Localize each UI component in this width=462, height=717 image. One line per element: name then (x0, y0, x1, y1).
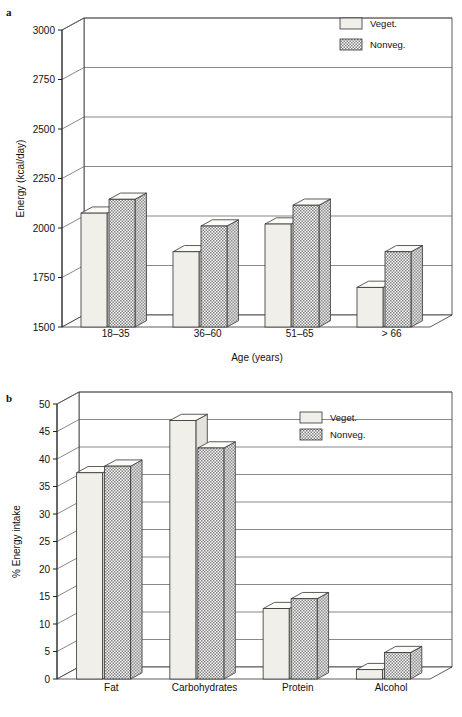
y-axis-title: % Energy intake (11, 505, 22, 578)
bar-front (201, 226, 227, 327)
bar-front (109, 199, 135, 327)
y-axis: 1500175020002250250027503000 (33, 25, 62, 333)
bar-front (198, 448, 224, 679)
bar-front (384, 653, 410, 679)
bar-b-Fat-nonveg (105, 460, 142, 679)
y-tick-label: 2000 (33, 223, 56, 234)
y-tick-label: 20 (39, 564, 51, 575)
bar-front (105, 466, 131, 679)
bar-side (131, 460, 142, 679)
y-tick-label: 30 (39, 509, 51, 520)
y-tick-label: 1500 (33, 322, 56, 333)
y-axis: 05101520253035404550 (39, 399, 57, 685)
y-tick-label: 15 (39, 591, 51, 602)
legend-swatch-nonveg (300, 429, 322, 440)
bar-b-Carbohydrates-nonveg (198, 442, 235, 679)
figure-panel-b: b 05101520253035404550% Energy intakeFat… (0, 370, 462, 717)
legend-label-nonveg: Nonveg. (330, 429, 365, 440)
bar-front (293, 205, 319, 327)
bar-front (265, 224, 291, 327)
legend-swatch-veget (300, 412, 322, 423)
y-tick-label: 50 (39, 399, 51, 410)
chart-a: 1500175020002250250027503000Energy (kcal… (0, 0, 462, 370)
y-tick-label: 40 (39, 454, 51, 465)
bar-front (357, 287, 383, 327)
y-tick-label: 5 (44, 646, 50, 657)
chart-b: 05101520253035404550% Energy intakeFatCa… (0, 370, 462, 717)
bar-side (227, 220, 238, 327)
bar-front (356, 670, 382, 679)
bar-b-Protein-nonveg (291, 592, 328, 679)
bar-a-3660-nonveg (201, 220, 238, 327)
bar-front (81, 213, 107, 327)
y-tick-label: 2500 (33, 124, 56, 135)
chart-svg-a: 1500175020002250250027503000Energy (kcal… (0, 0, 462, 370)
bar-front (263, 609, 289, 679)
x-category-label: 36–60 (194, 328, 222, 339)
y-tick-label: 3000 (33, 25, 56, 36)
bar-front (173, 252, 199, 327)
bar-side (319, 199, 330, 327)
y-axis-title: Energy (kcal/day) (15, 140, 26, 218)
y-tick-label: 45 (39, 426, 51, 437)
bar-front (77, 473, 103, 679)
x-category-label: Fat (104, 682, 119, 693)
bar-side (224, 442, 235, 679)
bar-a-66-nonveg (385, 246, 422, 327)
x-category-label: 18–35 (102, 328, 130, 339)
y-tick-label: 10 (39, 619, 51, 630)
bar-b-Alcohol-nonveg (384, 646, 421, 679)
y-tick-label: 35 (39, 481, 51, 492)
legend-label-veget: Veget. (370, 18, 397, 29)
y-tick-label: 2750 (33, 74, 56, 85)
bar-side (135, 193, 146, 327)
y-tick-label: 2250 (33, 173, 56, 184)
bar-a-5165-nonveg (293, 199, 330, 327)
bar-front (170, 421, 196, 680)
figure-panel-a: a 1500175020002250250027503000Energy (kc… (0, 0, 462, 370)
x-category-label: 51–65 (286, 328, 314, 339)
chart-svg-b: 05101520253035404550% Energy intakeFatCa… (0, 370, 462, 717)
y-tick-label: 0 (44, 674, 50, 685)
x-category-label: Carbohydrates (172, 682, 238, 693)
bar-side (411, 246, 422, 327)
bar-side (317, 592, 328, 679)
bar-front (385, 252, 411, 327)
bar-a-1835-nonveg (109, 193, 146, 327)
x-axis-title: Age (years) (231, 352, 283, 363)
y-tick-label: 25 (39, 536, 51, 547)
legend-label-nonveg: Nonveg. (370, 39, 405, 50)
legend-swatch-nonveg (340, 39, 362, 50)
x-category-label: > 66 (382, 328, 402, 339)
y-tick-label: 1750 (33, 272, 56, 283)
legend-label-veget: Veget. (330, 412, 357, 423)
bar-front (291, 599, 317, 679)
legend-swatch-veget (340, 18, 362, 29)
x-category-label: Protein (282, 682, 314, 693)
x-category-label: Alcohol (375, 682, 408, 693)
